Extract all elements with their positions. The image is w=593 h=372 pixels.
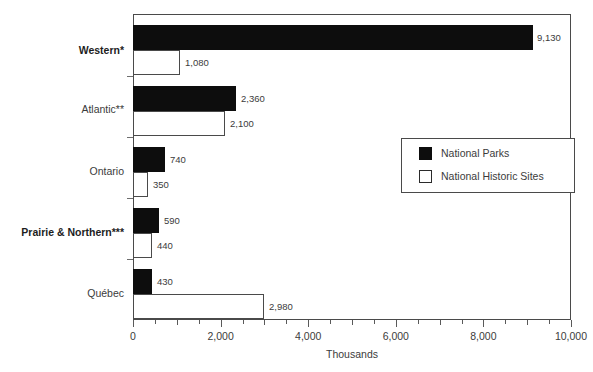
x-axis-title: Thousands	[133, 349, 571, 360]
xtick-8000	[483, 320, 484, 327]
xtick-minor	[527, 320, 528, 325]
bar-value-parks-prairie-northern: 590	[164, 216, 180, 226]
bar-parks-ontario	[133, 147, 165, 172]
bar-sites-quebec	[133, 294, 264, 319]
category-label-atlantic: Atlantic**	[81, 104, 124, 115]
legend-label-national-parks: National Parks	[441, 148, 509, 159]
category-axis-labels: Western* Atlantic** Ontario Prairie & No…	[0, 0, 128, 372]
xtick-10000	[571, 320, 572, 327]
bar-value-sites-ontario: 350	[153, 180, 169, 190]
bar-value-parks-quebec: 430	[157, 277, 173, 287]
bar-sites-western	[133, 50, 180, 75]
xtick-label-10000: 10,000	[555, 331, 587, 342]
xtick-minor	[286, 320, 287, 324]
bar-value-sites-quebec: 2,980	[269, 302, 293, 312]
xtick-6000	[396, 320, 397, 327]
xtick-minor	[243, 320, 244, 324]
bar-value-sites-atlantic: 2,100	[230, 119, 254, 129]
xtick-label-4000: 4,000	[295, 331, 321, 342]
xtick-minor	[199, 320, 200, 324]
category-label-prairie-northern: Prairie & Northern***	[21, 227, 124, 238]
category-label-ontario: Ontario	[90, 166, 124, 177]
legend-swatch-open-square-icon	[419, 170, 432, 183]
category-separator-tick	[127, 76, 133, 77]
bar-value-sites-prairie-northern: 440	[157, 241, 173, 251]
category-label-western: Western*	[79, 45, 124, 56]
xtick-label-0: 0	[130, 331, 136, 342]
xtick-label-8000: 8,000	[470, 331, 496, 342]
bar-value-parks-atlantic: 2,360	[241, 94, 265, 104]
legend-item-national-historic-sites[interactable]: National Historic Sites	[419, 170, 544, 183]
xtick-2000	[221, 320, 222, 327]
xtick-minor	[155, 320, 156, 324]
xtick-minor	[505, 320, 506, 324]
bar-sites-prairie-northern	[133, 233, 152, 258]
bar-value-parks-ontario: 740	[170, 155, 186, 165]
xtick-minor	[177, 320, 178, 325]
category-separator-tick	[127, 259, 133, 260]
xtick-minor	[440, 320, 441, 325]
xtick-minor	[549, 320, 550, 324]
xtick-minor	[418, 320, 419, 324]
xtick-0	[133, 320, 134, 327]
legend-label-national-historic-sites: National Historic Sites	[441, 171, 544, 182]
bar-parks-quebec	[133, 269, 152, 294]
category-separator-tick	[127, 198, 133, 199]
legend: National Parks National Historic Sites	[401, 138, 575, 193]
xtick-label-2000: 2,000	[207, 331, 233, 342]
category-separator-tick	[127, 137, 133, 138]
bar-value-parks-western: 9,130	[537, 33, 561, 43]
xtick-minor	[374, 320, 375, 324]
bar-value-sites-western: 1,080	[185, 58, 209, 68]
bar-chart: Western* Atlantic** Ontario Prairie & No…	[0, 0, 593, 372]
legend-swatch-filled-square-icon	[419, 147, 432, 160]
xtick-4000	[308, 320, 309, 327]
xtick-minor	[462, 320, 463, 324]
legend-item-national-parks[interactable]: National Parks	[419, 147, 509, 160]
xtick-minor	[330, 320, 331, 324]
xtick-minor	[264, 320, 265, 325]
bar-parks-prairie-northern	[133, 208, 159, 233]
xtick-label-6000: 6,000	[383, 331, 409, 342]
bar-parks-western	[133, 25, 533, 50]
bar-parks-atlantic	[133, 86, 236, 111]
xtick-minor	[352, 320, 353, 325]
bar-sites-ontario	[133, 172, 148, 197]
bar-sites-atlantic	[133, 111, 225, 136]
category-label-quebec: Québec	[87, 288, 124, 299]
